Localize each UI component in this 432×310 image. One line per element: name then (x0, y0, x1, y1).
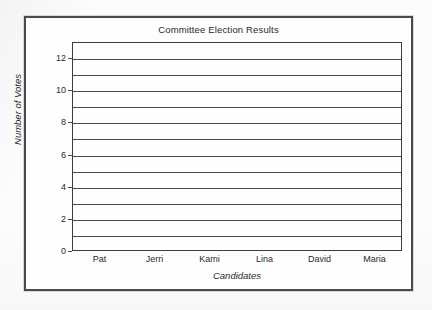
y-axis-tick-label: 4 (44, 182, 66, 192)
x-axis-tick-label: Lina (237, 254, 292, 264)
y-axis-tick-label: 6 (44, 150, 66, 160)
y-axis-tick-label: 2 (44, 214, 66, 224)
gridline (73, 75, 401, 76)
y-axis-tick-mark (68, 187, 72, 188)
y-axis-tick-mark (68, 219, 72, 220)
gridline (73, 139, 401, 140)
gridline (73, 107, 401, 108)
x-axis-tick-label: Maria (347, 254, 402, 264)
gridline (73, 236, 401, 237)
x-axis-tick-labels: PatJerriKamiLinaDavidMaria (72, 254, 402, 264)
y-axis-tick-labels: 024681012 (40, 0, 66, 310)
y-axis-tick-mark (68, 251, 72, 252)
y-axis-tick-mark (68, 90, 72, 91)
y-axis-tick-mark (68, 122, 72, 123)
gridline (73, 204, 401, 205)
gridline (73, 91, 401, 92)
y-axis-tick-mark (68, 58, 72, 59)
y-axis-tick-mark (68, 155, 72, 156)
gridline (73, 123, 401, 124)
worksheet-page: Committee Election Results Number of Vot… (0, 0, 432, 310)
gridline (73, 220, 401, 221)
y-axis-tick-label: 10 (44, 85, 66, 95)
y-axis-tick-label: 0 (44, 246, 66, 256)
plot-area (72, 42, 402, 251)
gridline (73, 156, 401, 157)
x-axis-tick-label: David (292, 254, 347, 264)
chart-title: Committee Election Results (24, 24, 413, 35)
x-axis-title: Candidates (72, 270, 402, 281)
gridline (73, 188, 401, 189)
gridline (73, 172, 401, 173)
x-axis-tick-label: Jerri (127, 254, 182, 264)
gridline (73, 59, 401, 60)
y-axis-title: Number of Votes (12, 55, 23, 165)
y-axis-tick-label: 8 (44, 117, 66, 127)
y-axis-tick-label: 12 (44, 53, 66, 63)
x-axis-tick-label: Pat (72, 254, 127, 264)
x-axis-tick-label: Kami (182, 254, 237, 264)
